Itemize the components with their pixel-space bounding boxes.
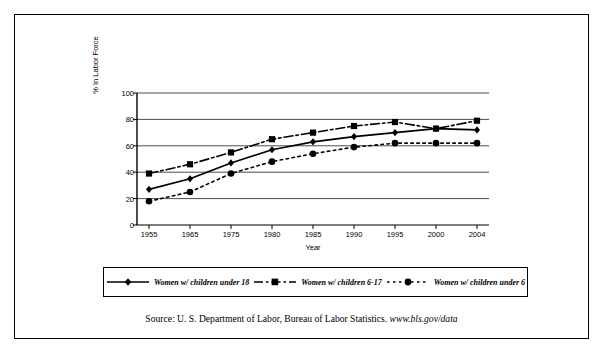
x-axis-tick-label: 1955 (141, 230, 158, 239)
y-axis-tick-label: 100 (121, 89, 134, 98)
legend-entry-2[interactable]: Women w/ children 6-17 (253, 276, 382, 288)
cut-off-header-text (0, 0, 603, 12)
data-point-marker (392, 119, 398, 125)
x-axis-tick-label: 1995 (387, 230, 404, 239)
data-point-marker (392, 140, 399, 147)
data-point-marker (351, 123, 357, 129)
data-point-marker (433, 140, 440, 147)
y-axis-title: % In Labor Force (91, 25, 100, 105)
data-point-marker (474, 126, 480, 133)
x-axis-tick-label: 1990 (346, 230, 363, 239)
figure-frame: % In Labor Force 02040608010019551965197… (14, 14, 589, 339)
data-point-marker (474, 118, 480, 124)
source-prefix: Source: U. S. Department of Labor, Burea… (145, 313, 387, 324)
x-axis-tick-label: 2004 (469, 230, 486, 239)
legend-label: Women w/ children 6-17 (301, 278, 382, 287)
circle-marker-icon (386, 276, 430, 288)
series-line-1 (149, 129, 477, 190)
x-axis-tick-label: 2000 (428, 230, 445, 239)
data-point-marker (351, 133, 357, 140)
data-point-marker (269, 158, 276, 165)
y-axis-tick-label: 20 (126, 194, 134, 203)
square-marker-icon (253, 276, 297, 288)
data-point-marker (310, 138, 316, 145)
data-point-marker (146, 198, 153, 205)
x-axis-tick-label: 1985 (305, 230, 322, 239)
source-note: Source: U. S. Department of Labor, Burea… (15, 313, 588, 324)
legend-label: Women w/ children under 18 (154, 278, 249, 287)
x-axis-tick-label: 1980 (264, 230, 281, 239)
x-axis-tick-label: 1965 (182, 230, 199, 239)
x-axis-tick-label: 1975 (223, 230, 240, 239)
line-chart-svg (137, 93, 489, 225)
chart-area: % In Labor Force 02040608010019551965197… (103, 77, 513, 257)
data-point-marker (269, 136, 275, 142)
data-point-marker (187, 161, 193, 167)
data-point-marker (228, 170, 235, 177)
legend-entry-1[interactable]: Women w/ children under 18 (106, 276, 249, 288)
y-axis-tick-label: 40 (126, 168, 134, 177)
y-axis-tick-label: 60 (126, 141, 134, 150)
data-point-marker (187, 175, 193, 182)
source-url: www.bls.gov/data (390, 313, 458, 324)
y-axis-tick-label: 80 (126, 115, 134, 124)
data-point-marker (310, 130, 316, 136)
data-point-marker (433, 126, 439, 132)
data-point-marker (351, 144, 358, 151)
data-point-marker (146, 186, 152, 193)
x-axis-title: Year (137, 243, 489, 252)
data-point-marker (310, 150, 317, 157)
plot-area: 0204060801001955196519751980198519901995… (137, 93, 489, 225)
diamond-marker-icon (106, 276, 150, 288)
chart-legend: Women w/ children under 18Women w/ child… (103, 267, 528, 297)
legend-label: Women w/ children under 6 (434, 278, 525, 287)
data-point-marker (474, 140, 481, 147)
data-point-marker (269, 146, 275, 153)
data-point-marker (228, 159, 234, 166)
data-point-marker (146, 170, 152, 176)
y-axis-tick-label: 0 (130, 221, 134, 230)
data-point-marker (392, 129, 398, 136)
data-point-marker (187, 189, 194, 196)
legend-entry-3[interactable]: Women w/ children under 6 (386, 276, 525, 288)
data-point-marker (228, 149, 234, 155)
